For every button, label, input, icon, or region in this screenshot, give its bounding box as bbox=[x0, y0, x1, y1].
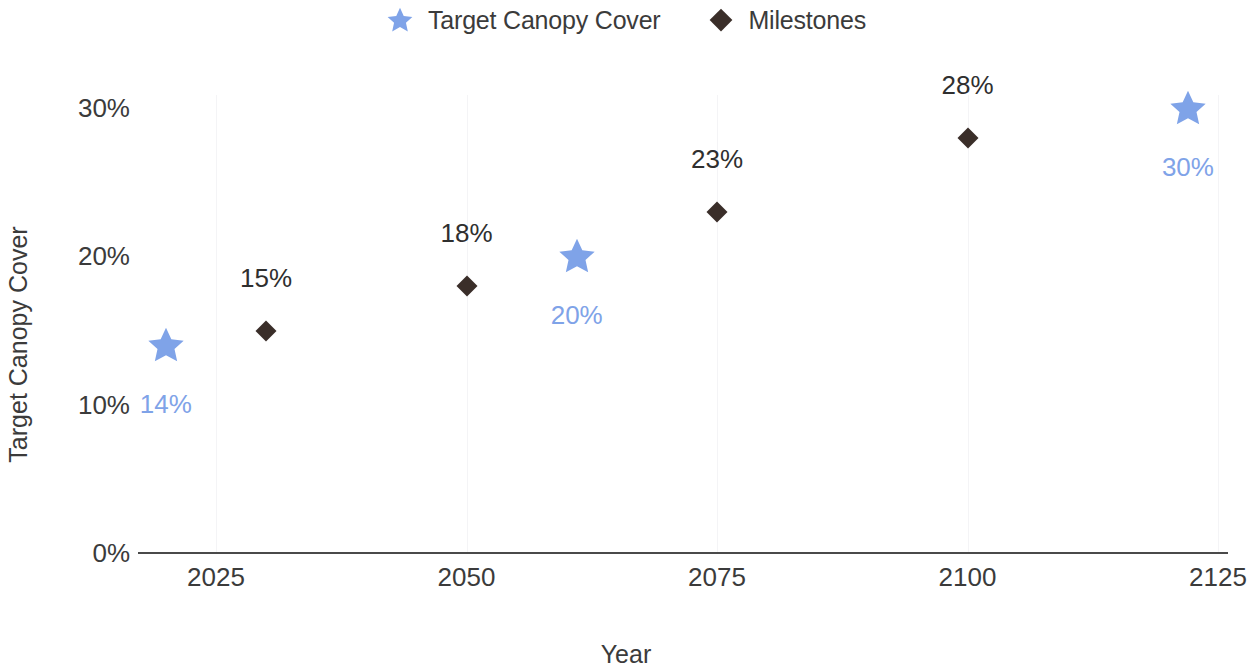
data-label-target-canopy-cover: 20% bbox=[551, 300, 603, 331]
gridline bbox=[467, 95, 468, 553]
y-axis-title: Target Canopy Cover bbox=[4, 195, 33, 495]
data-label-milestone: 18% bbox=[440, 218, 492, 249]
data-point-milestone bbox=[254, 319, 278, 343]
data-point-target-canopy-cover bbox=[146, 325, 186, 365]
gridline bbox=[216, 95, 217, 553]
data-label-target-canopy-cover: 14% bbox=[140, 389, 192, 420]
x-axis-tick-label: 2100 bbox=[939, 562, 997, 593]
x-axis-tick-label: 2125 bbox=[1189, 562, 1247, 593]
data-point-target-canopy-cover bbox=[1168, 88, 1208, 128]
data-point-milestone bbox=[705, 200, 729, 224]
data-label-target-canopy-cover: 30% bbox=[1162, 152, 1214, 183]
data-point-milestone bbox=[455, 274, 479, 298]
data-label-milestone: 23% bbox=[691, 144, 743, 175]
canopy-cover-chart: Target Canopy Cover Milestones 30%20%10%… bbox=[0, 0, 1252, 670]
plot-area: 30%20%10%0% 20252050207521002125 14%20%3… bbox=[0, 0, 1252, 670]
data-point-target-canopy-cover bbox=[557, 236, 597, 276]
y-axis-tick-label: 0% bbox=[10, 538, 130, 569]
y-axis-tick-label: 30% bbox=[10, 93, 130, 124]
data-label-milestone: 15% bbox=[240, 263, 292, 294]
data-label-milestone: 28% bbox=[941, 70, 993, 101]
gridline bbox=[1218, 95, 1219, 553]
data-point-milestone bbox=[956, 126, 980, 150]
gridline bbox=[968, 95, 969, 553]
x-axis-line bbox=[138, 552, 1228, 554]
x-axis-tick-label: 2025 bbox=[187, 562, 245, 593]
x-axis-tick-label: 2075 bbox=[688, 562, 746, 593]
x-axis-title: Year bbox=[0, 640, 1252, 669]
x-axis-tick-label: 2050 bbox=[438, 562, 496, 593]
